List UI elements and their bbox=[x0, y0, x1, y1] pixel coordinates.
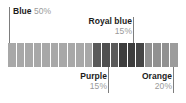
unit-cell bbox=[145, 43, 154, 67]
unit-cell bbox=[42, 43, 51, 67]
unit-cell bbox=[162, 43, 171, 67]
unit-cell bbox=[76, 43, 85, 67]
unit-cell bbox=[119, 43, 128, 67]
unit-cell bbox=[85, 43, 94, 67]
unit-cell bbox=[8, 43, 17, 67]
unit-cell bbox=[51, 43, 60, 67]
leader-line-orange bbox=[173, 67, 174, 93]
unit-cell bbox=[153, 43, 162, 67]
callout-purple-category: Purple bbox=[55, 71, 107, 81]
callout-purple-percent: 15% bbox=[55, 81, 107, 91]
unit-cell bbox=[111, 43, 120, 67]
unit-cell bbox=[68, 43, 77, 67]
callout-purple: Purple 15% bbox=[55, 71, 107, 91]
callout-blue-percent: 50% bbox=[34, 6, 51, 16]
callout-blue-category: Blue bbox=[13, 6, 32, 16]
unit-cell bbox=[136, 43, 145, 67]
unit-cell bbox=[59, 43, 68, 67]
leader-line-royal-blue bbox=[133, 17, 134, 43]
unit-cell bbox=[128, 43, 137, 67]
leader-line-purple bbox=[108, 67, 109, 93]
unit-cell bbox=[34, 43, 43, 67]
callout-royal-blue-category: Royal blue bbox=[74, 16, 132, 26]
unit-cell bbox=[170, 43, 178, 67]
unit-bar-chart: Blue 50% Royal blue 15% Purple 15% Orang… bbox=[0, 0, 186, 103]
callout-orange: Orange 20% bbox=[120, 71, 172, 91]
callout-orange-percent: 20% bbox=[120, 81, 172, 91]
unit-cell bbox=[17, 43, 26, 67]
callout-royal-blue: Royal blue 15% bbox=[74, 16, 132, 36]
unit-cell bbox=[102, 43, 111, 67]
callout-orange-category: Orange bbox=[120, 71, 172, 81]
callout-royal-blue-percent: 15% bbox=[74, 26, 132, 36]
stacked-unit-bar bbox=[8, 43, 178, 67]
callout-blue: Blue 50% bbox=[13, 6, 51, 16]
leader-line-blue bbox=[9, 7, 10, 43]
unit-cell bbox=[93, 43, 102, 67]
unit-cell bbox=[25, 43, 34, 67]
